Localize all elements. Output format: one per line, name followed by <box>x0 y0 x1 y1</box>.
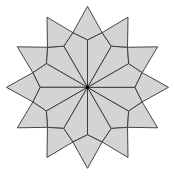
center-point <box>86 86 89 89</box>
star-rosette-diagram <box>0 0 174 178</box>
tip-kite <box>7 73 41 102</box>
tip-kite <box>73 6 102 40</box>
tip-kite <box>73 135 102 169</box>
tip-kite <box>135 73 169 102</box>
